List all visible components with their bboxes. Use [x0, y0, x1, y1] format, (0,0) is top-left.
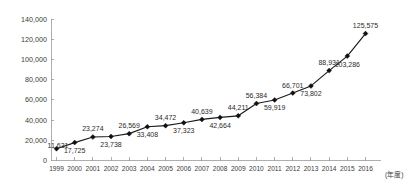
series-point-label: 17,725: [64, 147, 86, 154]
series-point-label: 23,274: [82, 125, 104, 132]
x-axis-tick-label: 2007: [195, 165, 210, 172]
series-point-label: 59,919: [264, 104, 286, 111]
y-axis-tick-label: 100,000: [21, 55, 47, 64]
x-axis-tick-label: 2015: [340, 165, 355, 172]
x-axis-tick-label: 2006: [176, 165, 191, 172]
y-axis-tick-label: 0: [43, 156, 47, 165]
x-axis-tick-label: 2004: [140, 165, 155, 172]
series-point-label: 40,639: [191, 108, 213, 115]
series-point-label: 23,738: [100, 141, 122, 148]
x-axis-tick-label: 2003: [122, 165, 137, 172]
series-point-label: 34,472: [155, 114, 177, 121]
line-chart: 140,000120,000100,00080,00060,00040,0002…: [0, 0, 414, 187]
x-axis-tick-label: 1999: [49, 165, 64, 172]
x-axis-tick-label: 2011: [268, 165, 283, 172]
x-axis-title: (年度): [385, 170, 404, 179]
series-point-label: 37,323: [173, 127, 195, 134]
y-axis-tick-label: 120,000: [21, 35, 47, 44]
series-point-label: 73,802: [300, 90, 322, 97]
series-point-label: 42,664: [209, 122, 231, 129]
series-point-label: 56,384: [246, 92, 268, 99]
y-axis-tick-label: 140,000: [21, 15, 47, 24]
series-point-label: 66,701: [282, 82, 304, 89]
x-axis-tick-label: 2014: [322, 165, 337, 172]
x-axis-tick-label: 2010: [249, 165, 264, 172]
y-axis-tick-label: 20,000: [25, 136, 47, 145]
x-axis-tick-label: 2012: [285, 165, 300, 172]
series-point-label: 44,211: [228, 104, 249, 111]
y-axis-tick-label: 80,000: [25, 75, 47, 84]
series-point-label: 33,408: [137, 131, 159, 138]
x-axis-tick-label: 2013: [304, 165, 319, 172]
series-point-label: 125,575: [353, 22, 378, 29]
x-axis-tick-label: 2000: [67, 165, 82, 172]
x-axis-tick-label: 2001: [86, 165, 101, 172]
chart-canvas: 140,000120,000100,00080,00060,00040,0002…: [0, 0, 414, 187]
y-axis-tick-label: 40,000: [25, 116, 47, 125]
series-point-label: 103,286: [335, 61, 360, 68]
x-axis-tick-label: 2005: [158, 165, 173, 172]
x-axis-tick-label: 2008: [213, 165, 228, 172]
series-point-label: 26,569: [118, 122, 140, 129]
y-axis-tick-label: 60,000: [25, 95, 47, 104]
x-axis-tick-label: 2009: [231, 165, 246, 172]
x-axis-tick-label: 2002: [104, 165, 119, 172]
x-axis-tick-label: 2016: [358, 165, 373, 172]
